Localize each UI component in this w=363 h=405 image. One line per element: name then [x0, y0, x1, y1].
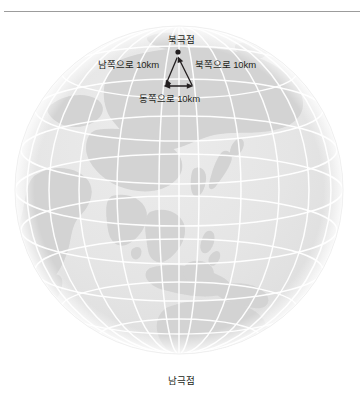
globe-illustration — [0, 0, 363, 405]
north-pole-dot — [175, 49, 180, 54]
figure-root: 북극점 남쪽으로 10km 북쪽으로 10km 동쪽으로 10km 남극점 — [0, 0, 363, 405]
globe-svg — [0, 0, 363, 405]
